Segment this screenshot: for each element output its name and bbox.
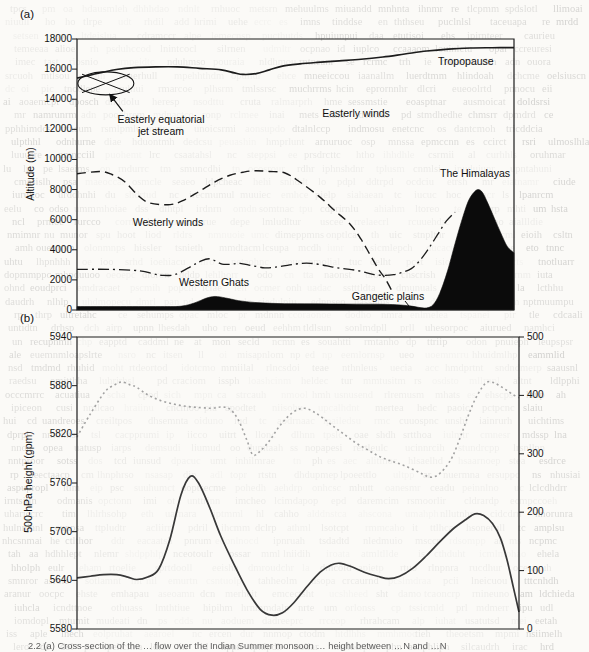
figure-caption: 2.2 (a) Cross-section of the … flow over… — [28, 641, 560, 651]
y-tick-label: 5640 — [28, 574, 72, 585]
y-tick-label: 12000 — [28, 123, 72, 134]
y-tick-label: 100 — [527, 565, 567, 576]
western-ghats-annotation: Western Ghats — [164, 277, 264, 289]
himalayas-annotation: The Himalayas — [425, 168, 525, 180]
500-hpa-height-line — [77, 476, 519, 615]
gangetic-plains-annotation: Gangetic plains — [338, 291, 438, 303]
y-tick-label: 5700 — [28, 526, 72, 537]
jet-annotation-line1: Easterly equatorial — [118, 113, 205, 125]
y-tick-label: 5760 — [28, 477, 72, 488]
jet-stream-annotation: Easterly equatorial jet stream — [105, 114, 217, 137]
y-tick-label: 5940 — [28, 331, 72, 342]
y-tick-label: 18000 — [28, 33, 72, 44]
y-tick-label: 300 — [527, 448, 567, 459]
y-tick-label: 16000 — [28, 63, 72, 74]
westerly-winds-boundary-line — [77, 171, 392, 291]
y-tick-label: 6000 — [28, 214, 72, 225]
y-tick-label: 400 — [527, 389, 567, 400]
y-tick-label: 5580 — [28, 623, 72, 634]
terrain-area — [77, 190, 514, 310]
westerly-winds-annotation: Westerly winds — [118, 217, 218, 229]
y-tick-label: 0 — [527, 623, 567, 634]
jet-annotation-arrow — [110, 94, 123, 111]
y-tick-label: 5820 — [28, 428, 72, 439]
y-tick-label: 0 — [28, 304, 72, 315]
y-tick-label: 2000 — [28, 274, 72, 285]
unlabeled-dotted-series-right-axis-line — [77, 382, 519, 478]
jet-stream-symbol — [78, 72, 134, 95]
panel-b-plot — [77, 337, 519, 629]
y-tick-label: 5880 — [28, 380, 72, 391]
y-tick-label: 4000 — [28, 244, 72, 255]
jet-annotation-line2: jet stream — [138, 125, 184, 137]
panel-a-label: (a) — [20, 8, 34, 20]
y-tick-label: 8000 — [28, 184, 72, 195]
panel-b-frame — [77, 337, 519, 629]
easterly-winds-annotation: Easterly winds — [306, 108, 406, 120]
tropopause-annotation: Tropopause — [438, 56, 508, 68]
y-tick-label: 500 — [527, 331, 567, 342]
y-tick-label: 200 — [527, 506, 567, 517]
y-tick-label: 14000 — [28, 93, 72, 104]
y-tick-label: 10000 — [28, 153, 72, 164]
